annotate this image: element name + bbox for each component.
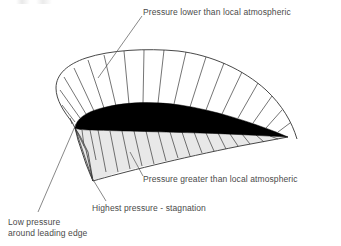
label-pressure-greater: Pressure greater than local atmospheric (143, 174, 298, 185)
leader-line-stagnation (92, 178, 106, 201)
label-low-pressure-line2: around leading edge (8, 228, 87, 239)
label-pressure-lower: Pressure lower than local atmospheric (143, 7, 291, 18)
leader-line-upper-label (98, 16, 142, 78)
label-low-pressure-line1: Low pressure (8, 217, 60, 227)
leader-line-leading-edge (38, 124, 76, 212)
label-highest-pressure-stagnation: Highest pressure - stagnation (92, 203, 206, 214)
label-low-pressure-leading-edge: Low pressure around leading edge (8, 217, 87, 239)
scan-artifact (16, 0, 58, 4)
